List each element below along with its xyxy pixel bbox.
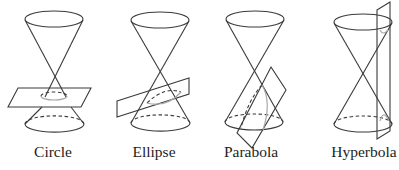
parabola-panel: Parabola — [224, 11, 286, 160]
hyperbola-panel: Hyperbola — [331, 2, 397, 160]
double-cone — [334, 14, 392, 132]
label-ellipse: Ellipse — [132, 143, 175, 160]
upper-cone-rim — [25, 11, 83, 27]
cone-generator-left — [25, 20, 66, 97]
upper-cone-rim — [334, 14, 392, 30]
lower-cone-rim-hidden — [131, 115, 190, 123]
circle-panel: Circle — [8, 11, 91, 160]
conic-sections-diagram: Circle Ellipse Parabola — [0, 0, 399, 170]
cone-generator-lower-left — [25, 107, 42, 124]
lower-cone-rim-hidden — [334, 116, 392, 124]
double-cone — [225, 11, 284, 130]
double-cone — [25, 11, 84, 132]
upper-cone-rim — [226, 11, 284, 27]
lower-cone-rim — [225, 122, 283, 130]
lower-cone-rim — [334, 124, 392, 132]
ellipse-panel: Ellipse — [117, 12, 190, 160]
lower-cone-rim — [25, 124, 84, 132]
lower-cone-rim-hidden — [225, 114, 283, 122]
lower-cone-rim-hidden — [25, 116, 84, 124]
double-cone — [131, 12, 190, 131]
cutting-plane — [237, 67, 286, 148]
upper-cone-rim — [131, 12, 189, 28]
label-parabola: Parabola — [224, 143, 278, 160]
lower-cone-rim — [131, 123, 190, 131]
cone-generator-right — [45, 20, 83, 97]
label-hyperbola: Hyperbola — [331, 143, 397, 160]
label-circle: Circle — [34, 143, 72, 160]
cutting-plane — [8, 88, 91, 107]
cone-generator-right — [225, 20, 284, 122]
